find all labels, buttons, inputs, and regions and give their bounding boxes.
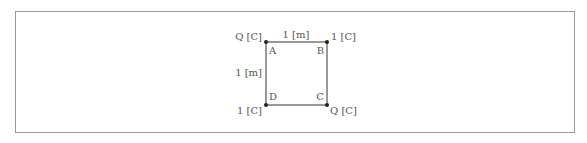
charge-a: Q [C]	[235, 31, 262, 42]
point-b	[325, 40, 329, 44]
label-c: C	[316, 91, 324, 102]
label-d: D	[269, 91, 277, 102]
charge-c: Q [C]	[330, 105, 357, 116]
point-d	[264, 103, 268, 107]
point-a	[264, 40, 268, 44]
label-a: A	[268, 45, 277, 56]
charge-d: 1 [C]	[237, 105, 262, 116]
side-left-label: 1 [m]	[235, 67, 262, 78]
label-b: B	[317, 45, 324, 56]
square-diagram: Q [C] 1 [C] Q [C] 1 [C] A B C D 1 [m] 1 …	[0, 0, 587, 143]
point-c	[325, 103, 329, 107]
charge-b: 1 [C]	[331, 31, 356, 42]
side-top-label: 1 [m]	[283, 29, 310, 40]
